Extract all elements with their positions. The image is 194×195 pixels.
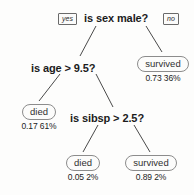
- leaf-label: died: [66, 155, 100, 171]
- node-root-split[interactable]: is sex male?: [84, 12, 148, 24]
- edge-age-to-sibsp: [96, 74, 113, 107]
- leaf-survived-right[interactable]: survived 0.73 36%: [132, 53, 194, 83]
- leaf-stats: 0.73 36%: [132, 73, 194, 83]
- leaf-stats: 0.05 2%: [54, 172, 112, 182]
- leaf-label: survived: [137, 56, 188, 72]
- leaf-label: died: [22, 104, 56, 120]
- edge-sibsp-to-died: [83, 125, 98, 152]
- leaf-stats: 0.17 61%: [8, 121, 70, 131]
- leaf-label: survived: [125, 155, 176, 171]
- decision-tree-diagram: is sex male? yes no is age > 9.5? surviv…: [0, 0, 194, 195]
- edge-tag-no: no: [163, 13, 179, 25]
- edge-sibsp-to-survived: [134, 125, 150, 152]
- leaf-died-left[interactable]: died 0.17 61%: [8, 101, 70, 131]
- leaf-survived-bottom[interactable]: survived 0.89 2%: [118, 152, 184, 182]
- node-sibsp-split[interactable]: is sibsp > 2.5?: [70, 112, 144, 124]
- leaf-died-bottom[interactable]: died 0.05 2%: [54, 152, 112, 182]
- leaf-stats: 0.89 2%: [118, 172, 184, 182]
- edge-tag-yes: yes: [58, 13, 77, 25]
- node-age-split[interactable]: is age > 9.5?: [31, 62, 95, 74]
- edge-age-to-died: [39, 74, 60, 101]
- edge-root-to-survived: [146, 26, 162, 52]
- edge-root-to-age: [80, 26, 96, 56]
